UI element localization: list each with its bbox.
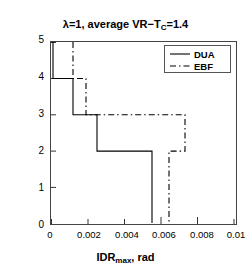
x-axis-title-subscript: max xyxy=(115,256,131,265)
x-tick-label-4: 0.008 xyxy=(182,229,222,240)
y-tick-label-2: 2 xyxy=(22,145,44,156)
x-tick-label-3: 0.006 xyxy=(144,229,184,240)
chart-title-tail: =1.4 xyxy=(166,18,188,30)
x-axis-title-tail: , rad xyxy=(131,251,154,263)
x-axis-title: IDRmax, rad xyxy=(0,251,251,265)
chart-title-main: λ=1, average VR−T xyxy=(63,18,161,30)
legend-key-dashdot-icon xyxy=(169,61,191,71)
legend-item-dua: DUA xyxy=(169,48,230,60)
figure: λ=1, average VR−TC=1.4 storey 5 4 3 2 1 … xyxy=(0,0,251,274)
legend-label-dua: DUA xyxy=(194,49,215,60)
chart-title: λ=1, average VR−TC=1.4 xyxy=(0,18,251,32)
x-tick-label-0: 0 xyxy=(32,229,68,240)
y-tick-label-3: 3 xyxy=(22,108,44,119)
x-tick-label-2: 0.004 xyxy=(107,229,147,240)
legend-item-ebf: EBF xyxy=(169,60,230,72)
y-tick-label-4: 4 xyxy=(22,71,44,82)
x-axis-title-main: IDR xyxy=(96,251,115,263)
y-tick-label-1: 1 xyxy=(22,182,44,193)
x-axis-ticks xyxy=(52,217,235,224)
legend-key-solid-icon xyxy=(169,49,191,59)
legend: DUA EBF xyxy=(164,45,231,73)
x-tick-label-5: 0.01 xyxy=(219,229,251,240)
x-tick-label-1: 0.002 xyxy=(69,229,109,240)
y-tick-label-5: 5 xyxy=(22,34,44,45)
legend-label-ebf: EBF xyxy=(194,61,213,72)
series-line-dua xyxy=(53,42,152,223)
